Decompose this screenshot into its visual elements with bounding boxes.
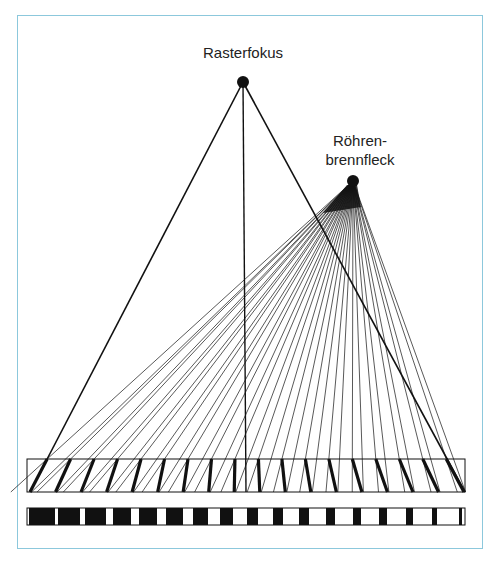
shadow-block: [406, 508, 413, 525]
tube-ray-top: [63, 181, 353, 492]
tube-ray-bottom: [210, 181, 353, 492]
shadow-block: [113, 508, 131, 525]
tube-ray-bottom: [83, 181, 353, 492]
tube-ray-bottom: [236, 181, 353, 492]
tube-ray-bottom: [185, 181, 353, 492]
anti-scatter-grid-diagram: [0, 0, 494, 567]
lamella: [305, 459, 310, 492]
tube-ray-top: [352, 181, 353, 492]
tube-ray-bottom: [57, 181, 353, 492]
tube-ray-top: [116, 181, 353, 492]
grid-lamellae: [30, 459, 464, 492]
tube-focus-rays: [11, 181, 466, 492]
shadow-block: [432, 508, 437, 525]
tube-ray-bottom: [32, 181, 354, 492]
lamella: [329, 459, 337, 492]
tube-focus-label-line1: Röhren-: [300, 131, 420, 150]
shadow-block: [193, 508, 208, 525]
lamella: [132, 459, 141, 492]
shadow-block: [459, 508, 462, 525]
tube-ray-bottom: [312, 181, 353, 492]
shadow-block: [247, 508, 258, 525]
shadow-block: [29, 508, 55, 525]
tube-ray-top: [195, 181, 353, 492]
shadow-block: [139, 508, 157, 525]
lamella: [258, 459, 259, 492]
tube-ray-bottom: [338, 181, 353, 492]
tube-focus-label-line2: brennfleck: [300, 150, 420, 169]
lamella: [81, 459, 94, 492]
tube-ray-top: [247, 181, 353, 492]
lamella: [352, 459, 362, 492]
tube-ray-bottom: [353, 181, 466, 492]
tube-focus-label: Röhren- brennfleck: [300, 131, 420, 169]
lamella: [282, 459, 285, 492]
tube-ray-top: [11, 181, 353, 492]
shadow-block: [166, 508, 183, 525]
shadow-block: [326, 508, 335, 525]
shadow-block: [220, 508, 233, 525]
tube-ray-top: [353, 181, 405, 492]
raster-focus-point: [237, 76, 249, 88]
lamella: [234, 459, 235, 492]
shadow-block: [299, 508, 309, 525]
tube-ray-top: [168, 181, 353, 492]
tube-ray-top: [300, 181, 353, 492]
shadow-blocks: [29, 508, 462, 525]
lamella: [423, 459, 439, 492]
shadow-block: [353, 508, 361, 525]
tube-ray-bottom: [108, 181, 353, 492]
tube-focus-point: [347, 175, 359, 187]
shadow-block: [379, 508, 387, 525]
raster-focus-label: Rasterfokus: [183, 43, 303, 62]
shadow-block: [58, 508, 80, 525]
tube-ray-top: [353, 181, 431, 492]
tube-ray-bottom: [159, 181, 353, 492]
shadow-block: [273, 508, 283, 525]
lamella: [30, 459, 47, 492]
shadow-block: [85, 508, 106, 525]
tube-ray-top: [221, 181, 353, 492]
tube-ray-top: [37, 181, 353, 492]
